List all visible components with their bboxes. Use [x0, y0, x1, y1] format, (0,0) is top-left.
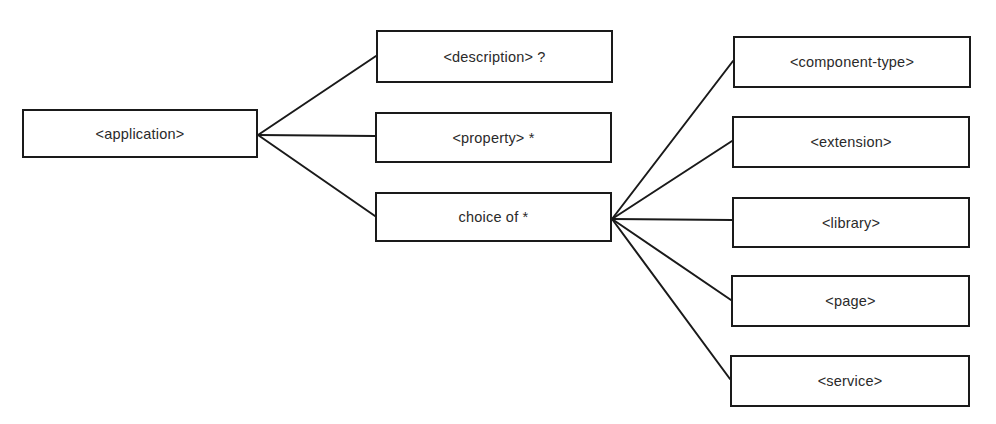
node-service: <service>: [730, 355, 970, 407]
node-component-type: <component-type>: [733, 36, 971, 88]
node-property: <property> *: [375, 112, 612, 163]
node-library: <library>: [732, 197, 970, 248]
tree-diagram: <application> <description> ? <property>…: [0, 0, 996, 424]
node-extension: <extension>: [732, 116, 970, 168]
node-description: <description> ?: [376, 30, 613, 83]
edge-application-property: [258, 135, 375, 136]
node-application: <application>: [22, 109, 258, 158]
edge-application-description: [258, 56, 376, 135]
edge-choice-service: [612, 219, 730, 379]
edge-application-choice: [258, 135, 375, 216]
edge-choice-extension: [612, 141, 732, 219]
node-page: <page>: [731, 275, 970, 327]
node-choice-of: choice of *: [375, 192, 612, 242]
edge-choice-library: [612, 219, 732, 220]
edge-choice-component-type: [612, 61, 733, 219]
edge-choice-page: [612, 219, 731, 300]
